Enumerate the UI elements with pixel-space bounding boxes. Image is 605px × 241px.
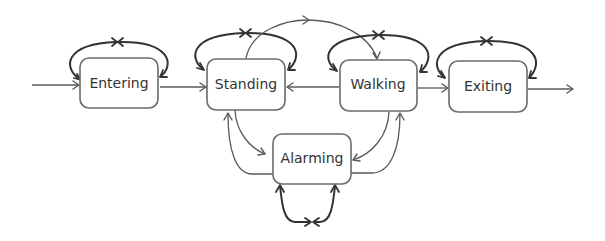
node-label-walking: Walking xyxy=(350,76,405,92)
node-exiting: Exiting xyxy=(449,61,527,112)
edge-walking-to-exiting xyxy=(417,84,448,92)
edge-standing-to-alarming xyxy=(235,110,265,155)
edge-walking-to-standing xyxy=(287,83,339,91)
node-label-exiting: Exiting xyxy=(464,78,512,94)
state-diagram: Entering Standing Walking Exiting Alarmi… xyxy=(0,0,605,241)
node-label-alarming: Alarming xyxy=(281,150,344,166)
node-standing: Standing xyxy=(207,59,285,110)
edge-alarming-self-loop xyxy=(276,185,339,226)
node-label-standing: Standing xyxy=(215,76,277,92)
node-entering: Entering xyxy=(80,58,158,108)
edge-standing-to-walking xyxy=(246,16,380,59)
edge-walking-to-alarming xyxy=(353,112,389,161)
edge-entering-to-standing xyxy=(160,83,206,91)
node-alarming: Alarming xyxy=(273,134,351,184)
edge-start-to-entering xyxy=(32,81,79,89)
node-label-entering: Entering xyxy=(89,75,148,91)
node-walking: Walking xyxy=(340,60,417,111)
edge-exiting-to-end xyxy=(528,85,573,93)
